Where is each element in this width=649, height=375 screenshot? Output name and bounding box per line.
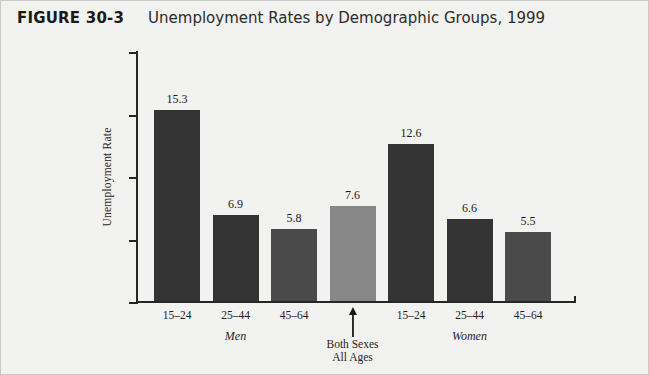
- bar-value-label: 5.8: [287, 211, 302, 226]
- x-axis-end-tick: [574, 296, 576, 303]
- y-axis-title: Unemployment Rate: [101, 128, 113, 227]
- y-axis-top-cap: [136, 51, 138, 59]
- x-axis-label: 15–24: [397, 309, 426, 321]
- annotation-caption-line1: Both Sexes: [326, 338, 378, 351]
- annotation-caption: Both Sexes All Ages: [326, 338, 378, 364]
- figure-title: Unemployment Rates by Demographic Groups…: [148, 9, 545, 27]
- bar: 5.5: [505, 232, 551, 301]
- y-tick-15: [129, 115, 138, 117]
- x-axis-label: 45–64: [514, 309, 543, 321]
- bar: 6.9: [213, 215, 259, 301]
- group-label: Men: [225, 329, 246, 344]
- chart-plot-area: Unemployment Rate 05101520 15.36.95.87.6…: [136, 51, 576, 303]
- bar: 6.6: [447, 219, 493, 302]
- bar-value-label: 6.9: [228, 197, 243, 212]
- annotation-caption-line2: All Ages: [326, 351, 378, 364]
- bar-value-label: 5.5: [521, 214, 536, 229]
- x-axis-label: 45–64: [280, 309, 309, 321]
- bar-value-label: 6.6: [462, 201, 477, 216]
- x-axis-line: [136, 301, 576, 303]
- both-sexes-annotation: Both Sexes All Ages: [326, 307, 378, 364]
- bar: 7.6: [330, 206, 376, 301]
- x-axis-label: 15–24: [163, 309, 192, 321]
- bar-value-label: 7.6: [345, 188, 360, 203]
- bar: 12.6: [388, 144, 434, 302]
- y-tick-10: [129, 177, 138, 179]
- y-tick-0: [129, 302, 138, 304]
- figure-container: FIGURE 30-3 Unemployment Rates by Demogr…: [0, 0, 649, 375]
- x-axis-label: 25–44: [455, 309, 484, 321]
- figure-header: FIGURE 30-3 Unemployment Rates by Demogr…: [17, 9, 545, 27]
- figure-number-label: FIGURE 30-3: [17, 9, 124, 27]
- bar-value-label: 15.3: [167, 92, 188, 107]
- group-label: Women: [452, 329, 487, 344]
- y-tick-5: [129, 240, 138, 242]
- bar-value-label: 12.6: [401, 126, 422, 141]
- bar: 15.3: [154, 110, 200, 301]
- x-axis-label: 25–44: [221, 309, 250, 321]
- up-arrow-icon: [346, 307, 358, 337]
- bar: 5.8: [271, 229, 317, 302]
